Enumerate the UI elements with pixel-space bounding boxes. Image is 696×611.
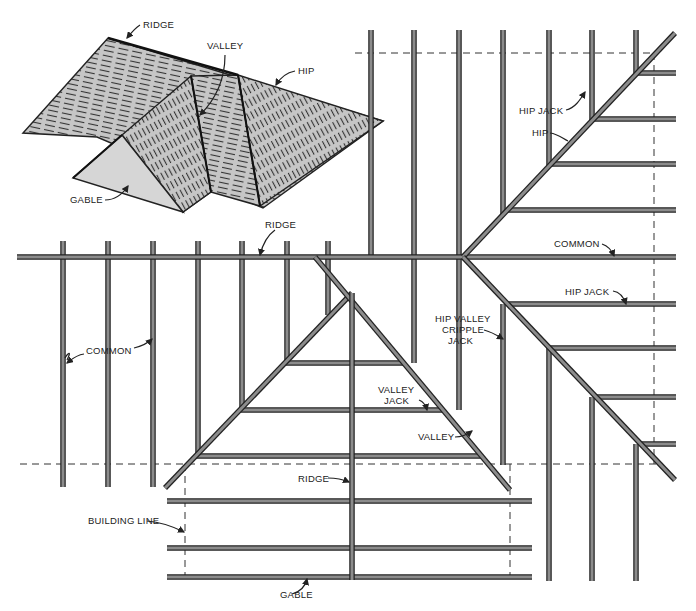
inset-roof-perspective	[23, 25, 383, 212]
plan-label-1: HIP	[532, 127, 548, 138]
plan-label-12: RIDGE	[298, 473, 329, 484]
leader-ridge	[127, 25, 140, 38]
plan-label-5: HIP VALLEY	[435, 313, 491, 324]
inset-label-1: VALLEY	[207, 40, 244, 51]
inset-label-3: GABLE	[70, 194, 103, 205]
inset-label-0: RIDGE	[143, 19, 174, 30]
plan-label-3: COMMON	[554, 238, 600, 249]
hip-end-plane	[238, 75, 383, 206]
plan-label-8: COMMON	[86, 345, 132, 356]
plan-label-14: GABLE	[280, 589, 313, 600]
leader-hip	[276, 71, 295, 85]
plan-label-13: BUILDING LINE	[88, 515, 159, 526]
plan-label-7: JACK	[448, 335, 474, 346]
plan-label-10: JACK	[384, 395, 410, 406]
plan-label-4: HIP JACK	[565, 286, 610, 297]
hip-0-fill	[463, 33, 675, 257]
diagram-canvas: RIDGEVALLEYHIPGABLEHIP JACKHIPRIDGECOMMO…	[0, 0, 696, 611]
roof-framing-diagram: RIDGEVALLEYHIPGABLEHIP JACKHIPRIDGECOMMO…	[0, 0, 696, 611]
plan-label-0: HIP JACK	[519, 105, 564, 116]
plan-label-6: CRIPPLE	[442, 324, 484, 335]
inset-label-2: HIP	[298, 65, 314, 76]
plan-label-9: VALLEY	[378, 384, 415, 395]
plan-label-11: VALLEY	[418, 431, 455, 442]
plan-label-2: RIDGE	[265, 219, 296, 230]
